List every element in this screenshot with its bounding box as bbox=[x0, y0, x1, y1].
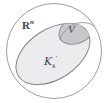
label-ambient-superscript: n bbox=[30, 18, 34, 26]
label-cone-prime: ′ bbox=[55, 54, 57, 62]
label-subset-v: V bbox=[68, 24, 75, 35]
label-cone-base: K bbox=[44, 55, 52, 68]
label-cone-set: Kk′ bbox=[44, 55, 57, 70]
diagram-canvas bbox=[0, 0, 109, 103]
label-cone-subscript: k bbox=[52, 62, 55, 70]
label-ambient-space: Rn bbox=[22, 19, 34, 31]
set-diagram-figure: Rn V Kk′ bbox=[0, 0, 109, 103]
label-ambient-base: R bbox=[22, 19, 30, 31]
